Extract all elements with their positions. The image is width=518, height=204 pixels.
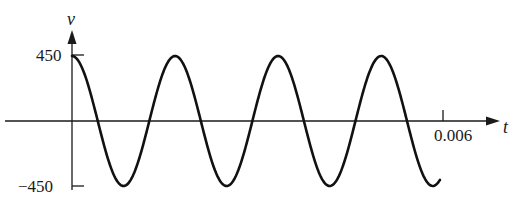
y-axis-label: v	[67, 9, 75, 29]
y-max-label: 450	[36, 46, 62, 65]
y-min-label: −450	[18, 177, 53, 196]
x-axis-label: t	[503, 117, 509, 137]
x-axis-arrow-icon	[486, 117, 500, 126]
y-axis-arrow-icon	[68, 30, 77, 44]
x-tick-label: 0.006	[434, 126, 472, 145]
voltage-waveform-chart: v t 450 −450 0.006	[0, 0, 518, 204]
